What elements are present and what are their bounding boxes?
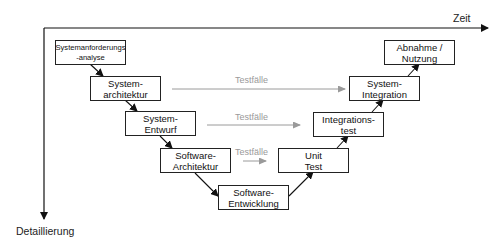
box-line: Entwurf xyxy=(144,124,176,135)
testcase-label-2: Testfälle xyxy=(235,112,268,122)
box-line: System- xyxy=(108,78,143,89)
box-softwarearchitektur: Software- Architektur xyxy=(160,148,231,173)
box-line: Nutzung xyxy=(402,53,437,64)
box-softwareentwicklung: Software- Entwicklung xyxy=(218,185,289,210)
box-line: Integrations- xyxy=(322,114,375,125)
box-integrationstest: Integrations- test xyxy=(313,112,384,137)
box-line: Unit xyxy=(305,150,322,161)
box-line: System- xyxy=(367,78,402,89)
box-line: Integration xyxy=(362,89,407,100)
box-systemanforderungsanalyse: Systemanforderungs -analyse xyxy=(55,40,126,65)
testcase-label-3: Testfälle xyxy=(235,147,268,157)
box-systemintegration: System- Integration xyxy=(349,76,420,101)
box-line: Software- xyxy=(233,187,274,198)
testcase-label-1: Testfälle xyxy=(235,75,268,85)
box-line: Systemanforderungs xyxy=(55,43,125,53)
box-line: Test xyxy=(305,161,322,172)
detail-axis-label: Detaillierung xyxy=(16,225,74,237)
box-line: architektur xyxy=(103,89,147,100)
box-line: Abnahme / xyxy=(397,42,443,53)
box-systemarchitektur: System- architektur xyxy=(90,76,161,101)
box-systementwurf: System- Entwurf xyxy=(125,111,196,136)
box-line: -analyse xyxy=(76,53,105,63)
box-line: test xyxy=(341,125,356,136)
box-line: System- xyxy=(143,113,178,124)
box-unittest: Unit Test xyxy=(278,148,349,173)
box-line: Architektur xyxy=(173,161,218,172)
box-abnahme-nutzung: Abnahme / Nutzung xyxy=(384,40,455,65)
box-line: Entwicklung xyxy=(228,198,279,209)
time-axis-label: Zeit xyxy=(453,12,471,24)
box-line: Software- xyxy=(175,150,216,161)
